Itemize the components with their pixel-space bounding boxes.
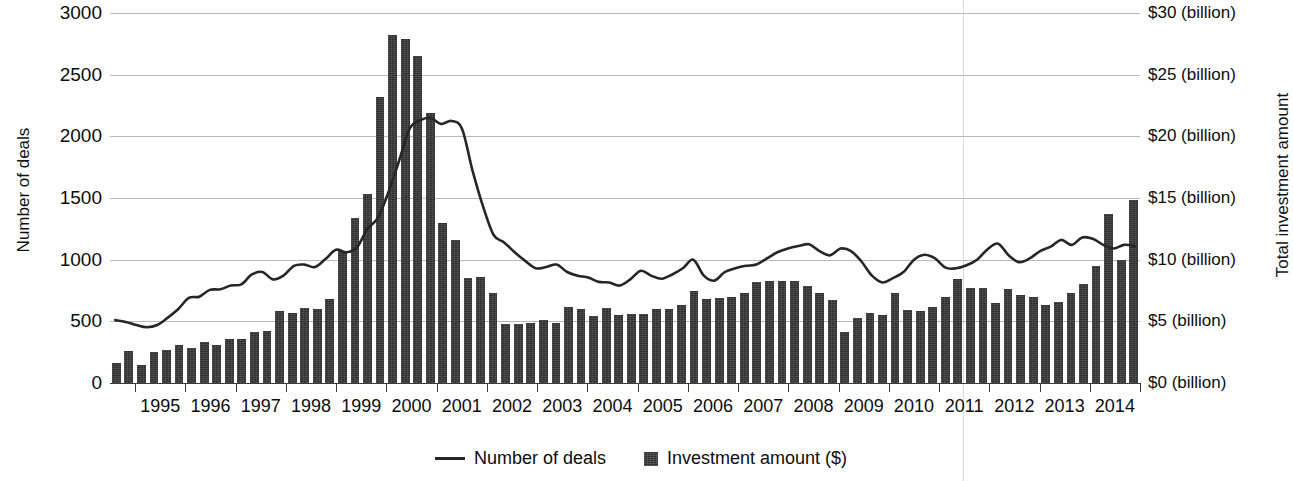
- y-left-tick-2000: 2000: [0, 125, 102, 147]
- x-axis-label-2009: 2009: [844, 396, 884, 417]
- y-left-tick-1000: 1000: [0, 249, 102, 271]
- y-right-tick-10: $10 (billion): [1148, 250, 1236, 270]
- x-tick-1996: [185, 383, 186, 392]
- x-axis-label-2011: 2011: [945, 396, 984, 417]
- x-axis-label-2014: 2014: [1095, 396, 1135, 417]
- x-axis-label-2001: 2001: [442, 396, 482, 417]
- x-axis-label-2002: 2002: [492, 396, 532, 417]
- x-tick-2005: [638, 383, 639, 392]
- x-tick-2000: [386, 383, 387, 392]
- x-axis-line: [110, 383, 1140, 384]
- legend-item-investment-amount[interactable]: Investment amount ($): [644, 448, 847, 469]
- x-tick-1995: [135, 383, 136, 392]
- y-axis-right-ticks: $30 (billion)$25 (billion)$20 (billion)$…: [1148, 0, 1282, 481]
- x-axis-label-2010: 2010: [894, 396, 934, 417]
- x-tick-2010: [889, 383, 890, 392]
- y-right-tick-15: $15 (billion): [1148, 188, 1236, 208]
- line-swatch-icon: [435, 457, 465, 460]
- y-left-tick-0: 0: [0, 372, 102, 394]
- y-axis-left-ticks: 300025002000150010005000: [0, 0, 102, 481]
- legend-label-number-of-deals: Number of deals: [474, 448, 606, 469]
- x-axis-label-1997: 1997: [241, 396, 281, 417]
- x-tick-1997: [236, 383, 237, 392]
- y-left-tick-500: 500: [0, 310, 102, 332]
- x-tick-2003: [537, 383, 538, 392]
- x-axis-label-2005: 2005: [643, 396, 683, 417]
- legend-item-number-of-deals[interactable]: Number of deals: [435, 448, 606, 469]
- x-tick-1999: [336, 383, 337, 392]
- bar-swatch-icon: [644, 452, 658, 466]
- x-tick-2001: [437, 383, 438, 392]
- x-tick-end: [1140, 383, 1141, 392]
- x-axis-label-1996: 1996: [190, 396, 230, 417]
- x-tick-2006: [688, 383, 689, 392]
- line-series-number-of-deals: [110, 13, 1140, 383]
- x-axis-label-2004: 2004: [592, 396, 632, 417]
- y-right-tick-30: $30 (billion): [1148, 3, 1236, 23]
- x-tick-2004: [587, 383, 588, 392]
- x-tick-2014: [1090, 383, 1091, 392]
- y-right-tick-20: $20 (billion): [1148, 126, 1236, 146]
- y-right-tick-25: $25 (billion): [1148, 65, 1236, 85]
- plot-area: [110, 13, 1140, 383]
- x-axis-label-2000: 2000: [391, 396, 431, 417]
- x-axis-label-2008: 2008: [793, 396, 833, 417]
- y-right-tick-0: $0 (billion): [1148, 373, 1226, 393]
- x-axis-label-2012: 2012: [994, 396, 1034, 417]
- y-left-tick-3000: 3000: [0, 2, 102, 24]
- x-axis-label-2006: 2006: [693, 396, 733, 417]
- x-tick-2012: [989, 383, 990, 392]
- x-tick-2002: [487, 383, 488, 392]
- y-left-tick-1500: 1500: [0, 187, 102, 209]
- chart-legend: Number of deals Investment amount ($): [0, 448, 1282, 469]
- x-axis-label-2003: 2003: [542, 396, 582, 417]
- x-tick-2008: [788, 383, 789, 392]
- x-tick-2011: [939, 383, 940, 392]
- x-axis-label-1999: 1999: [341, 396, 381, 417]
- x-tick-2007: [738, 383, 739, 392]
- x-tick-2009: [839, 383, 840, 392]
- x-axis-label-2013: 2013: [1045, 396, 1085, 417]
- x-tick-1998: [286, 383, 287, 392]
- y-left-tick-2500: 2500: [0, 64, 102, 86]
- x-axis-label-1995: 1995: [140, 396, 180, 417]
- legend-label-investment-amount: Investment amount ($): [667, 448, 847, 469]
- y-right-tick-5: $5 (billion): [1148, 311, 1226, 331]
- x-axis-label-1998: 1998: [291, 396, 331, 417]
- x-axis-label-2007: 2007: [743, 396, 783, 417]
- x-tick-2013: [1040, 383, 1041, 392]
